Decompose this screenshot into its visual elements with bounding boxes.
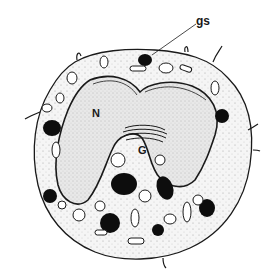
leader-line-gs bbox=[152, 24, 196, 55]
granule-gs bbox=[138, 54, 152, 66]
label-golgi: G bbox=[138, 144, 147, 156]
cell-diagram: gs N G bbox=[0, 0, 266, 271]
label-nucleus: N bbox=[92, 107, 100, 119]
label-gs: gs bbox=[196, 14, 210, 28]
